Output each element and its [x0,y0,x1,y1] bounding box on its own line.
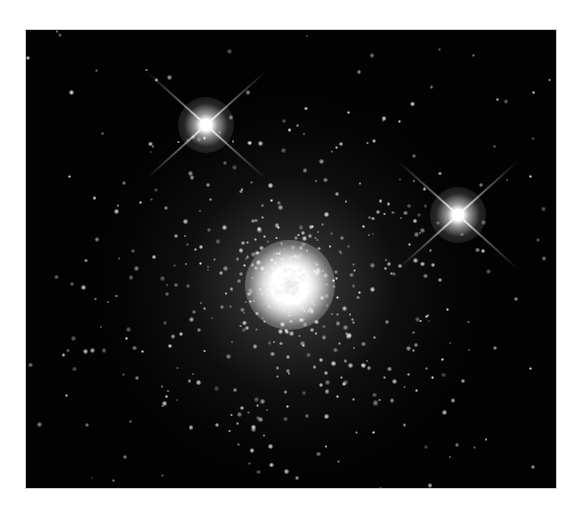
star [370,287,375,292]
star [254,219,257,222]
star [236,257,240,261]
star [424,445,428,449]
star [342,382,346,386]
star [280,257,285,262]
star [463,207,466,210]
star [353,269,356,272]
star [176,367,179,370]
star [332,279,335,282]
star [336,321,340,325]
star [270,199,272,201]
star [269,281,272,284]
star [207,228,211,232]
star [399,178,401,180]
star [296,268,301,273]
star-field-photo [26,30,556,488]
star [423,187,427,191]
star [278,306,281,309]
star [171,334,176,339]
star [255,312,259,316]
star [384,267,386,269]
star [219,271,223,275]
star [415,389,418,392]
star [307,286,311,290]
star [165,292,169,296]
star [319,159,324,164]
star [228,430,231,433]
star [449,342,451,344]
star [325,389,330,394]
star [531,465,535,469]
star [299,318,303,322]
star [277,226,281,230]
star [69,90,74,95]
star [423,274,428,279]
star [294,236,298,240]
star [451,398,456,403]
star [424,204,428,208]
star [289,331,294,336]
star [222,225,227,230]
star [413,180,415,182]
star [343,325,348,330]
star [332,285,335,288]
star [352,263,355,266]
star [94,298,97,301]
star [335,146,338,149]
star [338,250,342,254]
star [325,445,327,447]
star [101,132,104,135]
star [260,266,265,271]
star [163,321,167,325]
star [412,331,415,334]
star [280,322,285,327]
star [253,344,258,349]
star [415,317,420,322]
star [150,198,153,201]
star [267,271,271,275]
star [276,366,280,370]
star [291,245,295,249]
star [267,305,271,309]
star [475,248,480,253]
star [336,395,339,398]
star [161,405,163,407]
star [529,367,532,370]
star [298,335,301,338]
star [122,373,125,376]
star [268,341,272,345]
star [262,317,265,320]
star [314,261,316,263]
star [314,320,318,324]
star [352,321,355,324]
star [479,183,483,187]
star [340,236,345,241]
star [174,234,178,238]
star [209,198,212,201]
star [71,336,76,341]
star [254,397,259,402]
star [93,196,97,200]
star [345,200,348,203]
star [266,287,269,290]
star [319,383,323,387]
star [294,274,297,277]
star [362,225,365,228]
star [373,336,376,339]
star [430,85,433,88]
star [184,235,186,237]
star [315,180,317,182]
star [427,314,429,316]
star [254,266,257,269]
star [352,398,355,401]
star [403,386,405,388]
star [325,380,330,385]
star [287,311,289,313]
star [289,320,293,324]
star [188,379,192,383]
star [438,278,442,282]
star [414,232,418,236]
star [245,258,247,260]
star [376,210,380,214]
star [189,317,194,322]
